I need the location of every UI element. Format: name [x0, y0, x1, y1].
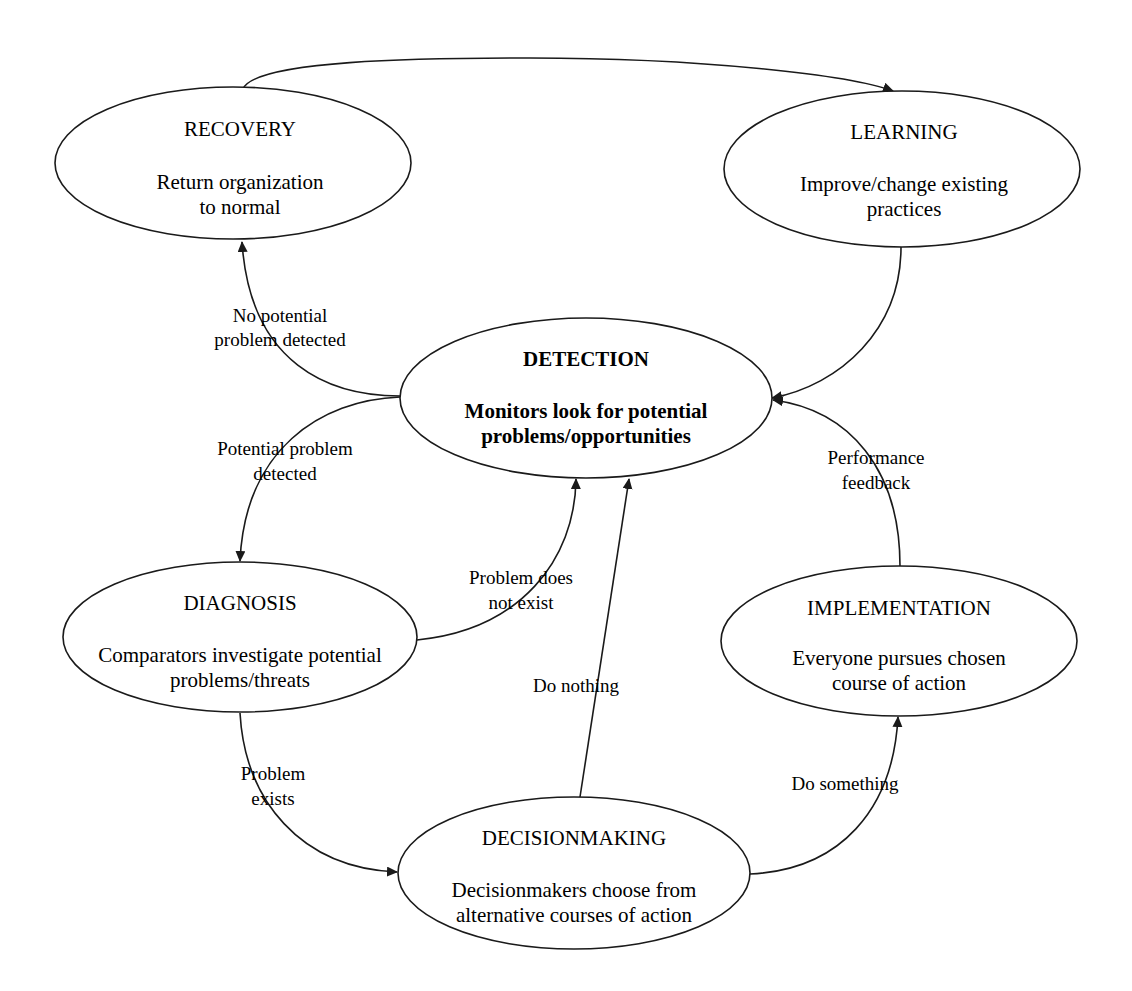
node-learning: LEARNING Improve/change existing practic…	[724, 91, 1080, 247]
node-implementation-desc-1: Everyone pursues chosen	[792, 646, 1006, 670]
node-learning-desc-1: Improve/change existing	[800, 172, 1009, 196]
node-recovery-desc-1: Return organization	[157, 170, 324, 194]
edge-learning-to-detection	[772, 247, 901, 398]
process-diagram: RECOVERY Return organization to normal L…	[0, 0, 1132, 991]
edge-decisionmaking-to-detection	[580, 479, 629, 797]
node-decisionmaking-desc-1: Decisionmakers choose from	[452, 878, 697, 902]
edge-decisionmaking-to-implementation	[750, 717, 898, 874]
node-detection: DETECTION Monitors look for potential pr…	[400, 318, 772, 478]
node-decisionmaking-title: DECISIONMAKING	[482, 826, 666, 850]
edge-recovery-to-learning	[243, 58, 893, 91]
label-performance-feedback-2: feedback	[842, 472, 911, 493]
node-recovery: RECOVERY Return organization to normal	[55, 87, 411, 239]
node-detection-desc-1: Monitors look for potential	[465, 399, 708, 423]
node-recovery-title: RECOVERY	[184, 117, 296, 141]
label-problem-not-exist-2: not exist	[489, 592, 555, 613]
label-potential-problem-2: detected	[253, 463, 317, 484]
label-do-something: Do something	[791, 773, 899, 794]
node-learning-title: LEARNING	[850, 120, 957, 144]
label-performance-feedback-1: Performance	[827, 447, 924, 468]
node-decisionmaking-desc-2: alternative courses of action	[456, 903, 693, 927]
label-potential-problem-1: Potential problem	[217, 438, 353, 459]
node-implementation-desc-2: course of action	[832, 671, 967, 695]
label-do-nothing: Do nothing	[533, 675, 620, 696]
node-implementation: IMPLEMENTATION Everyone pursues chosen c…	[721, 566, 1077, 716]
node-recovery-desc-2: to normal	[199, 195, 280, 219]
node-diagnosis-desc-2: problems/threats	[170, 668, 310, 692]
node-detection-title: DETECTION	[523, 347, 649, 371]
label-problem-not-exist-1: Problem does	[469, 567, 573, 588]
node-implementation-title: IMPLEMENTATION	[807, 596, 991, 620]
node-learning-desc-2: practices	[867, 197, 942, 221]
node-diagnosis: DIAGNOSIS Comparators investigate potent…	[63, 562, 417, 712]
node-diagnosis-desc-1: Comparators investigate potential	[98, 643, 382, 667]
label-no-potential-problem-2: problem detected	[214, 329, 346, 350]
node-detection-desc-2: problems/opportunities	[481, 424, 691, 448]
label-problem-exists-1: Problem	[241, 763, 306, 784]
node-diagnosis-title: DIAGNOSIS	[183, 591, 296, 615]
label-no-potential-problem-1: No potential	[233, 305, 327, 326]
node-decisionmaking: DECISIONMAKING Decisionmakers choose fro…	[398, 797, 750, 949]
edge-diagnosis-to-detection	[417, 479, 576, 640]
label-problem-exists-2: exists	[251, 788, 294, 809]
